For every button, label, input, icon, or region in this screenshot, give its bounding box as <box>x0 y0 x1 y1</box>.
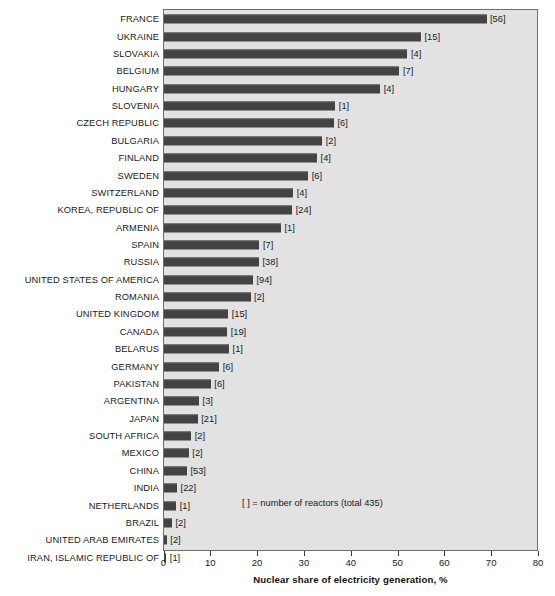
bar-value-label: [15] <box>425 32 441 42</box>
bar-row: BELARUS[1] <box>0 341 555 358</box>
bar <box>164 536 167 545</box>
bar-row: BELGIUM[7] <box>0 63 555 80</box>
category-label: BELGIUM <box>116 66 159 76</box>
bar <box>164 136 322 145</box>
bar <box>164 275 253 284</box>
bar-value-label: [4] <box>297 188 307 198</box>
bar <box>164 449 189 458</box>
bar <box>164 188 293 197</box>
bar-row: CZECH REPUBLIC[6] <box>0 115 555 132</box>
chart-annotation: [ ] = number of reactors (total 435) <box>242 498 383 508</box>
category-label: SPAIN <box>131 240 159 250</box>
bar-row: SLOVENIA[1] <box>0 97 555 114</box>
bar-value-label: [38] <box>263 257 279 267</box>
bar-value-label: [2] <box>170 535 180 545</box>
bar-value-label: [4] <box>384 84 394 94</box>
x-axis-tick-label: 70 <box>486 557 497 568</box>
bar <box>164 223 281 232</box>
bar <box>164 102 335 111</box>
bar-value-label: [4] <box>321 153 331 163</box>
bar-row: CANADA[19] <box>0 323 555 340</box>
x-axis-tick <box>491 551 492 556</box>
category-label: HUNGARY <box>112 84 159 94</box>
bar-value-label: [1] <box>170 553 180 563</box>
bar-row: UKRAINE[15] <box>0 28 555 45</box>
x-axis-tick <box>351 551 352 556</box>
x-axis-tick <box>398 551 399 556</box>
bar-value-label: [21] <box>201 414 217 424</box>
bar-value-label: [24] <box>296 205 312 215</box>
bar-value-label: [1] <box>285 223 295 233</box>
bar-row: SOUTH AFRICA[2] <box>0 427 555 444</box>
x-axis-title: Nuclear share of electricity generation,… <box>163 574 538 585</box>
x-axis-tick <box>257 551 258 556</box>
bar-value-label: [7] <box>263 240 273 250</box>
bar-value-label: [15] <box>232 309 248 319</box>
bar <box>164 293 251 302</box>
x-axis-tick-label: 10 <box>205 557 216 568</box>
bar-row: UNITED ARAB EMIRATES[2] <box>0 532 555 549</box>
category-label: BELARUS <box>115 344 159 354</box>
bar-row: BULGARIA[2] <box>0 132 555 149</box>
x-axis-tick-label: 60 <box>439 557 450 568</box>
bar-row: SLOVAKIA[4] <box>0 45 555 62</box>
bar-value-label: [7] <box>403 66 413 76</box>
bar-value-label: [1] <box>339 101 349 111</box>
x-axis-tick-label: 20 <box>252 557 263 568</box>
category-label: GERMANY <box>111 362 159 372</box>
bar-row: IRAN, ISLAMIC REPUBLIC OF[1] <box>0 549 555 566</box>
bar <box>164 327 227 336</box>
bar-value-label: [1] <box>233 344 243 354</box>
bar-value-label: [6] <box>214 379 224 389</box>
bar <box>164 15 487 24</box>
bar-value-label: [22] <box>181 483 197 493</box>
bar <box>164 84 380 93</box>
bar-row: BRAZIL[2] <box>0 514 555 531</box>
bar <box>164 484 177 493</box>
category-label: PAKISTAN <box>114 379 159 389</box>
bar <box>164 240 259 249</box>
bar-row: GERMANY[6] <box>0 358 555 375</box>
category-label: UNITED ARAB EMIRATES <box>46 535 159 545</box>
bar-value-label: [2] <box>195 431 205 441</box>
bar-value-label: [53] <box>190 466 206 476</box>
category-label: ARGENTINA <box>104 396 159 406</box>
bar-row: SPAIN[7] <box>0 236 555 253</box>
bar-row: PAKISTAN[6] <box>0 375 555 392</box>
bar-value-label: [56] <box>490 14 506 24</box>
bar-row: UNITED KINGDOM[15] <box>0 306 555 323</box>
x-axis-tick <box>538 551 539 556</box>
bar-value-label: [1] <box>180 501 190 511</box>
x-axis-tick <box>164 551 165 556</box>
bar <box>164 362 219 371</box>
category-label: SLOVENIA <box>112 101 159 111</box>
bar-value-label: [2] <box>326 136 336 146</box>
category-label: SWEDEN <box>118 171 159 181</box>
x-axis-tick-label: 40 <box>345 557 356 568</box>
category-label: SWITZERLAND <box>91 188 159 198</box>
bar <box>164 414 198 423</box>
category-label: SOUTH AFRICA <box>89 431 159 441</box>
category-label: UNITED STATES OF AMERICA <box>25 275 159 285</box>
bar <box>164 49 407 58</box>
bar <box>164 518 172 527</box>
bar <box>164 466 187 475</box>
bar-row: ROMANIA[2] <box>0 288 555 305</box>
bar <box>164 310 228 319</box>
category-label: CZECH REPUBLIC <box>76 118 159 128</box>
bar-value-label: [6] <box>312 171 322 181</box>
category-label: BULGARIA <box>111 136 159 146</box>
bar-row: UNITED STATES OF AMERICA[94] <box>0 271 555 288</box>
category-label: CANADA <box>120 327 159 337</box>
category-label: CHINA <box>130 466 159 476</box>
bar-row: RUSSIA[38] <box>0 254 555 271</box>
x-axis-tick <box>210 551 211 556</box>
category-label: ARMENIA <box>116 223 159 233</box>
bar-value-label: [2] <box>254 292 264 302</box>
bar <box>164 397 199 406</box>
category-label: MEXICO <box>122 448 159 458</box>
bar-value-label: [6] <box>337 118 347 128</box>
nuclear-share-bar-chart: FRANCE[56]UKRAINE[15]SLOVAKIA[4]BELGIUM[… <box>0 0 555 596</box>
category-label: RUSSIA <box>124 257 159 267</box>
bar-value-label: [2] <box>175 518 185 528</box>
